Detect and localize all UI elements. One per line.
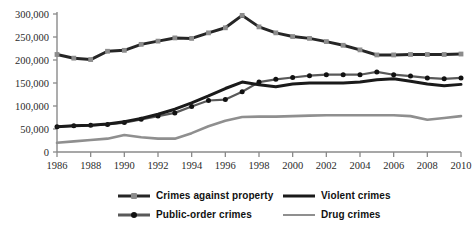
series-marker [391, 72, 396, 77]
x-tick-label: 2010 [451, 160, 472, 171]
series-marker [172, 36, 177, 41]
y-tick-label: 0 [44, 147, 49, 158]
series-marker [223, 97, 228, 102]
series-line [57, 15, 461, 59]
series-line [57, 79, 461, 127]
series-marker [240, 13, 245, 18]
series-marker [324, 39, 329, 44]
x-tick-label: 1994 [181, 160, 203, 171]
series-marker [408, 74, 413, 79]
x-tick-label: 1990 [114, 160, 135, 171]
legend-row-1: Crimes against property Violent crimes [0, 186, 476, 205]
y-tick-label: 100,000 [15, 101, 49, 112]
series-marker [290, 75, 295, 80]
x-tick-label: 2000 [282, 160, 303, 171]
series-marker [105, 49, 110, 54]
y-tick-label: 300,000 [15, 9, 49, 20]
figure-caption [2, 228, 302, 237]
series-marker [307, 73, 312, 78]
legend-label-public-order-crimes: Public-order crimes [156, 209, 252, 220]
legend-label-crimes-against-property: Crimes against property [156, 190, 273, 201]
series-marker [341, 43, 346, 48]
series-marker [206, 98, 211, 103]
series-marker [71, 56, 76, 61]
legend-swatch-public-order-crimes [118, 209, 150, 221]
legend-row-2: Public-order crimes Drug crimes [0, 205, 476, 224]
series-marker [307, 36, 312, 41]
series-marker [273, 30, 278, 35]
line-chart-plot: 050,000100,000150,000200,000250,000300,0… [0, 0, 476, 190]
legend-entry-drug-crimes[interactable]: Drug crimes [283, 205, 380, 224]
series-marker [273, 77, 278, 82]
y-tick-label: 150,000 [15, 78, 49, 89]
x-tick-label: 2004 [350, 160, 372, 171]
series-marker [374, 69, 379, 74]
y-tick-label: 250,000 [15, 32, 49, 43]
series-marker [442, 52, 447, 57]
series-marker [425, 52, 430, 57]
legend-label-violent-crimes: Violent crimes [321, 190, 391, 201]
x-tick-label: 2008 [417, 160, 438, 171]
legend-swatch-violent-crimes [283, 190, 315, 202]
series-marker [408, 52, 413, 57]
legend-entry-violent-crimes[interactable]: Violent crimes [283, 186, 391, 205]
series-marker [425, 75, 430, 80]
series-marker [189, 36, 194, 41]
series-marker [257, 24, 262, 29]
chart-figure: 050,000100,000150,000200,000250,000300,0… [0, 0, 476, 237]
series-marker [240, 89, 245, 94]
x-tick-label: 1998 [249, 160, 270, 171]
series-line [57, 115, 461, 143]
series-marker [358, 47, 363, 52]
series-marker [290, 34, 295, 39]
x-tick-label: 1992 [148, 160, 169, 171]
series-marker [391, 53, 396, 58]
series-marker [223, 25, 228, 30]
legend-label-drug-crimes: Drug crimes [321, 209, 380, 220]
series-marker [358, 72, 363, 77]
series-marker [55, 52, 60, 57]
series-marker [442, 76, 447, 81]
series-marker [122, 48, 127, 53]
series-marker [374, 53, 379, 58]
x-tick-label: 1996 [215, 160, 236, 171]
legend-entry-public-order-crimes[interactable]: Public-order crimes [118, 205, 283, 224]
series-marker [341, 72, 346, 77]
x-tick-label: 2006 [383, 160, 404, 171]
series-marker [459, 75, 464, 80]
series-marker [88, 57, 93, 62]
series-marker [324, 72, 329, 77]
legend-entry-crimes-against-property[interactable]: Crimes against property [118, 186, 283, 205]
x-tick-label: 1988 [80, 160, 101, 171]
legend-swatch-drug-crimes [283, 209, 315, 221]
y-tick-label: 200,000 [15, 55, 49, 66]
legend-swatch-crimes-against-property [118, 190, 150, 202]
series-marker [206, 30, 211, 35]
series-marker [139, 42, 144, 47]
series-marker [459, 52, 464, 57]
x-tick-label: 2002 [316, 160, 337, 171]
series-marker [156, 39, 161, 44]
chart-legend: Crimes against property Violent crimes P… [0, 186, 476, 228]
x-tick-label: 1986 [47, 160, 68, 171]
y-tick-label: 50,000 [20, 124, 49, 135]
